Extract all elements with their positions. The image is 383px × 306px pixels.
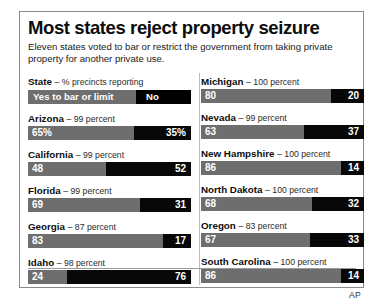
- state-row-label: Arizona – 99 percent: [28, 112, 191, 125]
- bar-value-no: 20: [348, 89, 359, 103]
- state-bar: 24 76: [28, 270, 191, 284]
- legend-label-yes: Yes to bar or limit: [33, 90, 114, 104]
- bar-value-yes: 80: [205, 89, 216, 103]
- state-row: Nevada – 99 percent 63 37: [201, 111, 364, 139]
- chart-frame: Most states reject property seizure Elev…: [19, 11, 364, 288]
- bar-value-no: 14: [348, 269, 359, 283]
- bar-value-no: 37: [348, 125, 359, 139]
- bar-value-yes: 48: [32, 162, 43, 176]
- state-precincts: – 83 percent: [238, 221, 286, 231]
- bar-value-yes: 86: [205, 269, 216, 283]
- bar-yes-fill: [28, 234, 163, 248]
- state-name: Oregon: [201, 220, 236, 231]
- state-name: Florida: [28, 185, 61, 196]
- state-row: North Dakota – 100 percent 68 32: [201, 183, 364, 211]
- legend-label-no: No: [146, 90, 159, 104]
- bar-value-yes: 68: [205, 197, 216, 211]
- state-row-label: Michigan – 100 percent: [201, 75, 364, 88]
- state-row-label: Oregon – 83 percent: [201, 219, 364, 232]
- bar-value-no: 35%: [166, 126, 186, 140]
- state-row: Idaho – 98 percent 24 76: [28, 256, 191, 284]
- bar-value-no: 32: [348, 197, 359, 211]
- state-row: Georgia – 87 percent 83 17: [28, 220, 191, 248]
- state-bar: 48 52: [28, 162, 191, 176]
- state-header-word: State: [28, 76, 52, 87]
- state-row: Oregon – 83 percent 67 33: [201, 219, 364, 247]
- bar-value-yes: 83: [32, 234, 43, 248]
- state-row-label: Georgia – 87 percent: [28, 220, 191, 233]
- bar-value-yes: 86: [205, 161, 216, 175]
- state-bar: 69 31: [28, 198, 191, 212]
- bar-yes-fill: [201, 269, 341, 283]
- bar-value-no: 52: [175, 162, 186, 176]
- state-precincts: – 99 percent: [63, 186, 111, 196]
- infographic-figure: Most states reject property seizure Elev…: [0, 0, 383, 306]
- state-precincts: – 87 percent: [68, 222, 116, 232]
- state-precincts: – 99 percent: [238, 113, 286, 123]
- state-bar: 65% 35%: [28, 126, 191, 140]
- state-header-note: – % precincts reporting: [55, 77, 144, 87]
- state-bar: 68 32: [201, 197, 364, 211]
- bar-yes-fill: [28, 198, 140, 212]
- state-name: Nevada: [201, 112, 236, 123]
- state-row-label: California – 99 percent: [28, 148, 191, 161]
- state-row: Michigan – 100 percent 80 20: [201, 75, 364, 103]
- bar-value-yes: 24: [32, 270, 43, 284]
- state-name: New Hampshire: [201, 148, 275, 159]
- state-precincts: – 100 percent: [246, 77, 299, 87]
- state-name: North Dakota: [201, 184, 263, 195]
- state-bar: 86 14: [201, 269, 364, 283]
- state-precincts: – 99 percent: [67, 114, 115, 124]
- state-precincts: – 99 percent: [76, 150, 124, 160]
- state-row: South Carolina – 100 percent 86 14: [201, 255, 364, 283]
- ap-credit: AP: [349, 290, 361, 300]
- state-row-label: New Hampshire – 100 percent: [201, 147, 364, 160]
- bottom-divider: [28, 268, 356, 269]
- state-bar: 80 20: [201, 89, 364, 103]
- state-bar: 67 33: [201, 233, 364, 247]
- chart-inner: Most states reject property seizure Elev…: [28, 17, 356, 283]
- bar-value-no: 17: [175, 234, 186, 248]
- bar-value-yes: 69: [32, 198, 43, 212]
- bar-value-yes: 65%: [32, 126, 52, 140]
- state-name: California: [28, 149, 73, 160]
- state-row-label: Florida – 99 percent: [28, 184, 191, 197]
- state-row: New Hampshire – 100 percent 86 14: [201, 147, 364, 175]
- bar-value-no: 33: [348, 233, 359, 247]
- state-name: Idaho: [28, 257, 54, 268]
- state-bar: 63 37: [201, 125, 364, 139]
- state-precincts: – 100 percent: [273, 257, 326, 267]
- right-column: Michigan – 100 percent 80 20 Nevada – 99: [201, 75, 364, 284]
- left-column: State – % precincts reporting Yes to bar…: [28, 75, 191, 284]
- state-row-label: North Dakota – 100 percent: [201, 183, 364, 196]
- bar-value-yes: 63: [205, 125, 216, 139]
- bar-value-no: 31: [175, 198, 186, 212]
- state-name: Arizona: [28, 113, 64, 124]
- bar-value-yes: 67: [205, 233, 216, 247]
- state-header: State – % precincts reporting: [28, 75, 191, 88]
- state-row: Florida – 99 percent 69 31: [28, 184, 191, 212]
- page-title: Most states reject property seizure: [28, 17, 356, 39]
- state-bar: 83 17: [28, 234, 191, 248]
- legend-bar: Yes to bar or limit No: [28, 90, 191, 104]
- state-name: Michigan: [201, 76, 243, 87]
- state-precincts: – 98 percent: [57, 258, 105, 268]
- bar-yes-fill: [201, 89, 331, 103]
- bar-value-no: 76: [175, 270, 186, 284]
- state-name: Georgia: [28, 221, 65, 232]
- bar-yes-fill: [201, 125, 304, 139]
- bar-yes-fill: [201, 161, 341, 175]
- bar-value-no: 14: [348, 161, 359, 175]
- state-row: Arizona – 99 percent 65% 35%: [28, 112, 191, 140]
- state-row-label: Nevada – 99 percent: [201, 111, 364, 124]
- bar-yes-fill: [201, 233, 310, 247]
- state-precincts: – 100 percent: [277, 149, 330, 159]
- columns-container: State – % precincts reporting Yes to bar…: [28, 75, 356, 284]
- state-row-label: South Carolina – 100 percent: [201, 255, 364, 268]
- state-precincts: – 100 percent: [265, 185, 318, 195]
- state-name: South Carolina: [201, 256, 271, 267]
- state-bar: 86 14: [201, 161, 364, 175]
- bar-yes-fill: [201, 197, 312, 211]
- chart-subtitle: Eleven states voted to bar or restrict t…: [28, 41, 346, 64]
- state-row: California – 99 percent 48 52: [28, 148, 191, 176]
